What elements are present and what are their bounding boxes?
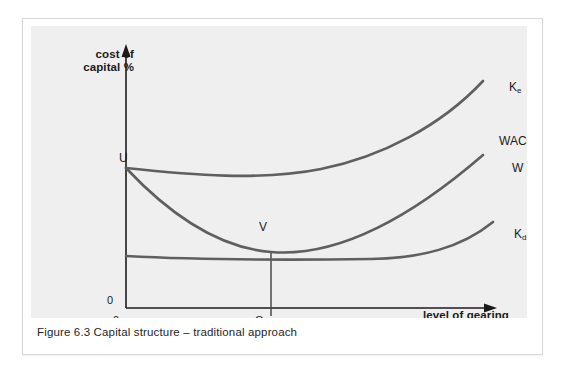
curve-label-kd: Kd	[514, 227, 526, 241]
point-label-v: V	[259, 220, 267, 234]
figure-card: cost of capital % level of gearing Ke WA…	[22, 18, 543, 355]
curve-label-ke-base: K	[509, 80, 517, 94]
curve-label-w: W	[512, 161, 523, 175]
curve-ke	[126, 81, 483, 176]
x-axis-title: level of gearing	[423, 309, 509, 318]
curve-label-ke: Ke	[509, 80, 521, 94]
x-axis-origin-tick-label: 0	[113, 314, 119, 318]
curve-kd	[126, 222, 493, 260]
y-axis-origin-tick-label: 0	[107, 294, 113, 306]
curve-label-kd-base: K	[514, 227, 522, 241]
y-axis-title: cost of capital %	[68, 48, 134, 74]
curve-label-ke-subscript: e	[517, 86, 521, 95]
point-label-u: U	[119, 151, 128, 165]
curve-label-kd-subscript: d	[522, 233, 526, 242]
curve-label-wacc: WACC	[499, 134, 527, 148]
x-axis-optimum-tick-label: O	[255, 314, 264, 318]
chart-plot-panel: cost of capital % level of gearing Ke WA…	[31, 26, 527, 318]
curve-wacc	[126, 155, 483, 253]
figure-caption: Figure 6.3 Capital structure – tradition…	[37, 326, 297, 338]
figure-page: cost of capital % level of gearing Ke WA…	[0, 0, 565, 371]
y-axis	[122, 44, 131, 308]
